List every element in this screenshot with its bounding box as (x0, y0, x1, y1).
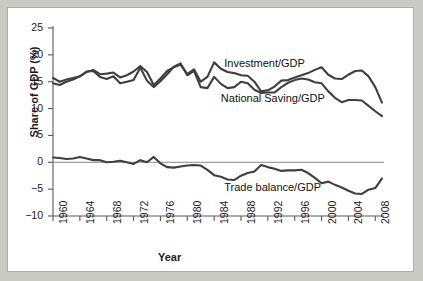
x-tick-label: 1992 (272, 201, 284, 224)
x-tick-label: 1980 (191, 201, 203, 224)
y-tick-label: 20 (15, 48, 43, 60)
x-tick-label: 1984 (218, 201, 230, 224)
y-tick-label: 10 (15, 102, 43, 114)
series-annotation: National Saving/GDP (221, 92, 325, 104)
x-tick-label: 1964 (84, 201, 96, 224)
x-tick-label: 1972 (138, 201, 150, 224)
x-tick-label: 1988 (245, 201, 257, 224)
y-tick-label: −10 (15, 209, 43, 221)
x-tick-label: 1976 (164, 201, 176, 224)
chart-plot-area (8, 8, 413, 271)
x-tick-label: 1960 (57, 201, 69, 224)
y-tick-label: 5 (15, 128, 43, 140)
x-tick-label: 2000 (326, 201, 338, 224)
y-tick-label: 0 (15, 155, 43, 167)
figure-background: Share of GDP (%) Year −10−50510152025 19… (0, 0, 423, 281)
x-tick-label: 1996 (299, 201, 311, 224)
x-tick-label: 2004 (352, 201, 364, 224)
series-line (53, 63, 382, 116)
y-tick-label: 15 (15, 75, 43, 87)
x-tick-label: 1968 (111, 201, 123, 224)
series-annotation: Trade balance/GDP (224, 181, 321, 193)
y-tick-label: 25 (15, 21, 43, 33)
x-tick-label: 2008 (379, 201, 391, 224)
y-tick-label: −5 (15, 182, 43, 194)
chart-panel: Share of GDP (%) Year −10−50510152025 19… (7, 7, 414, 272)
series-annotation: Investment/GDP (224, 57, 305, 69)
x-axis-title: Year (158, 251, 181, 263)
